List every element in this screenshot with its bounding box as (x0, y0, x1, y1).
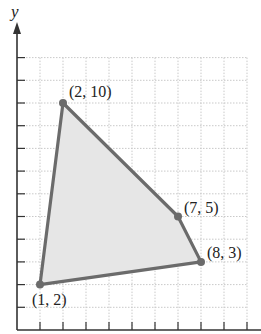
vertex-label: (8, 3) (207, 244, 242, 262)
vertex-point (197, 258, 205, 266)
vertex-point (59, 99, 67, 107)
coordinate-plane-figure: (2, 10)(7, 5)(8, 3)(1, 2) y (0, 0, 261, 334)
y-axis-label: y (9, 2, 19, 21)
vertex-label: (2, 10) (69, 83, 112, 101)
vertex-point (174, 213, 182, 221)
y-axis-arrow-icon (13, 22, 21, 34)
vertex-point (36, 281, 44, 289)
vertex-label: (7, 5) (184, 199, 219, 217)
vertex-label: (1, 2) (32, 291, 67, 309)
